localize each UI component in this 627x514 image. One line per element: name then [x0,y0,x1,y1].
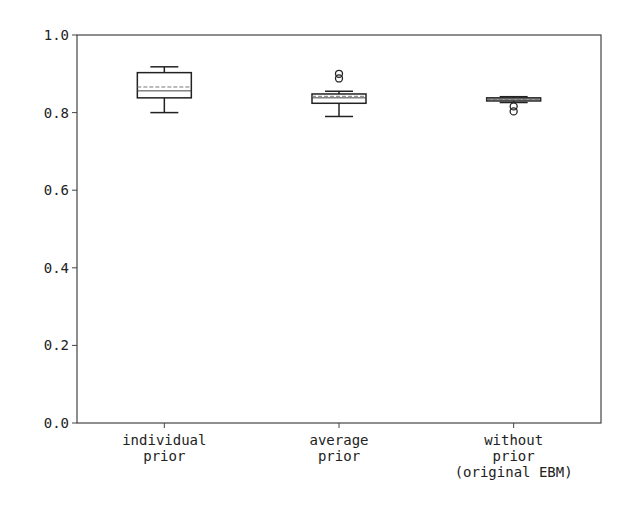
x-tick-label: individual [122,432,206,448]
x-tick-label: prior [318,448,360,464]
y-tick-label: 0.4 [44,260,69,276]
x-tick-label: average [309,432,368,448]
plot-area [137,67,540,117]
outlier-point [336,70,343,77]
x-tick-label: without [484,432,543,448]
x-tick-label: (original EBM) [455,464,573,480]
box-plot-chart: 0.00.20.40.60.81.0 individualprioraverag… [0,0,627,514]
y-axis: 0.00.20.40.60.81.0 [44,27,77,431]
x-axis: individualprioraveragepriorwithoutprior(… [122,423,572,480]
y-tick-label: 1.0 [44,27,69,43]
iqr-box [312,94,366,103]
box-1 [137,67,191,113]
iqr-box [137,73,191,98]
y-tick-label: 0.0 [44,415,69,431]
box-3 [487,97,541,115]
y-tick-label: 0.6 [44,182,69,198]
y-tick-label: 0.2 [44,337,69,353]
x-tick-label: prior [493,448,535,464]
box-2 [312,70,366,116]
outlier-point [510,108,517,115]
x-tick-label: prior [143,448,185,464]
y-tick-label: 0.8 [44,105,69,121]
